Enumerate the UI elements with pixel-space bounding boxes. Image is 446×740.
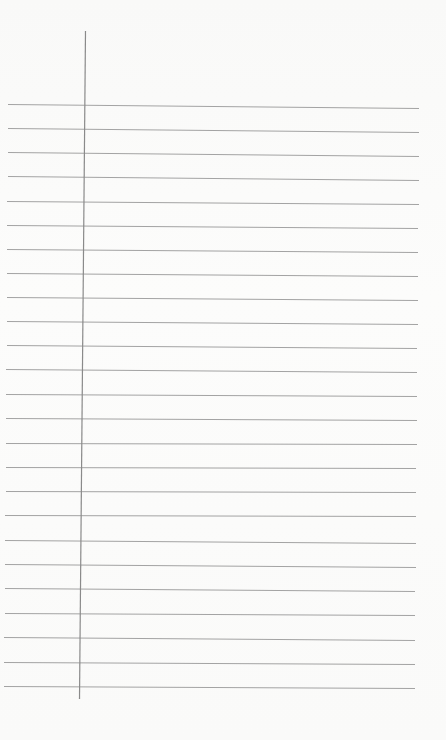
ruled-line — [7, 202, 419, 205]
ruled-line — [5, 614, 415, 616]
ruled-line — [6, 444, 417, 445]
ruled-line — [6, 395, 417, 397]
ruled-line — [7, 226, 418, 229]
ruled-line — [5, 516, 416, 517]
ruled-line — [7, 346, 417, 349]
ruled-line — [8, 129, 419, 133]
ruled-line — [8, 153, 419, 157]
ruled-line — [6, 370, 417, 373]
ruled-line — [6, 468, 416, 469]
ruled-lines-canvas — [0, 0, 446, 740]
ruled-line — [7, 322, 418, 325]
ruled-line — [7, 250, 418, 253]
ruled-line — [6, 492, 416, 493]
ruled-line — [4, 687, 415, 689]
ruled-line — [8, 177, 419, 181]
margin-line — [80, 31, 86, 699]
notepad-sheet — [0, 0, 446, 740]
ruled-line — [5, 565, 416, 568]
ruled-line — [6, 419, 417, 421]
ruled-line — [7, 298, 418, 301]
ruled-line — [4, 638, 415, 641]
ruled-line — [7, 274, 418, 277]
ruled-line — [8, 105, 419, 109]
ruled-line — [4, 663, 415, 665]
ruled-line — [5, 541, 416, 544]
ruled-line — [5, 589, 415, 592]
ruled-lines-group — [4, 105, 419, 689]
